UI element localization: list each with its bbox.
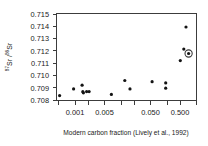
scatter-chart-figure: 0.715 0.714 0.713 0.712 0.711 0.710 0.70…: [0, 0, 208, 146]
data-point: [164, 87, 167, 90]
x-tick-label: 0.500: [171, 108, 190, 117]
data-point: [82, 91, 85, 94]
x-axis-ticks: [59, 101, 197, 106]
plot-frame: [57, 14, 197, 101]
x-tick-label: 0.050: [141, 108, 160, 117]
chart-canvas: 0.715 0.714 0.713 0.712 0.711 0.710 0.70…: [0, 0, 208, 146]
y-axis-title: 87Sr /86Sr: [5, 42, 13, 71]
y-tick-label: 0.713: [31, 34, 50, 43]
data-point: [182, 48, 185, 51]
svg-text:87Sr /86Sr: 87Sr /86Sr: [5, 42, 13, 71]
y-tick-label: 0.709: [31, 84, 50, 93]
data-point: [123, 79, 126, 82]
y-tick-label: 0.714: [31, 22, 50, 31]
data-point: [72, 87, 75, 90]
y-axis-ticks: [53, 14, 57, 100]
y-tick-label: 0.715: [31, 10, 50, 19]
x-axis-title: Modern carbon fraction (Lively et al., 1…: [63, 129, 188, 137]
x-tick-label: 0.005: [95, 108, 114, 117]
data-point: [184, 25, 187, 28]
y-axis-title-base-1: Sr /: [6, 55, 13, 66]
y-axis-tick-labels: 0.715 0.714 0.713 0.712 0.711 0.710 0.70…: [31, 10, 50, 105]
data-points-layer: [58, 25, 188, 97]
y-tick-label: 0.711: [31, 59, 49, 68]
x-tick-label: 0.001: [66, 108, 85, 117]
y-tick-label: 0.708: [31, 96, 50, 105]
y-tick-label: 0.710: [31, 71, 50, 80]
data-point: [81, 84, 84, 87]
y-axis-title-base-2: Sr: [6, 42, 13, 50]
data-point: [88, 90, 91, 93]
y-tick-label: 0.712: [31, 47, 50, 56]
data-point: [128, 87, 131, 90]
data-point: [58, 94, 61, 97]
data-point: [151, 80, 154, 83]
x-axis-tick-labels: 0.001 0.005 0.050 0.500: [66, 108, 190, 117]
highlighted-data-point: [185, 50, 192, 57]
data-point: [164, 81, 167, 84]
data-point: [179, 59, 182, 62]
data-point: [187, 52, 190, 55]
data-point: [110, 93, 113, 96]
